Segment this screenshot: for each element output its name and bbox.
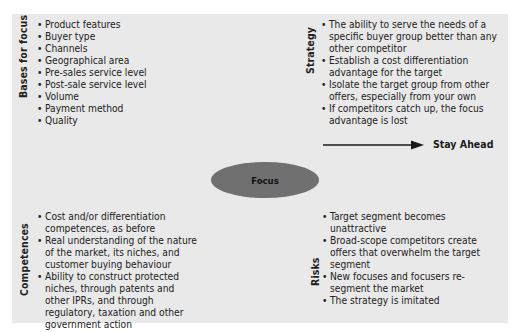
list-item: Isolate the target group from other offe… — [321, 79, 507, 103]
list-item: The ability to serve the needs of a spec… — [321, 19, 507, 55]
list-item: Broad-scope competitors create offers th… — [322, 235, 502, 271]
list-item: Buyer type — [37, 31, 217, 43]
list-item: Target segment becomes unattractive — [322, 211, 502, 235]
list-item: Post-sale service level — [37, 79, 217, 91]
competences-label: Competences — [18, 223, 30, 296]
list-item: Volume — [37, 91, 217, 103]
list-item: Ability to construct protected niches, t… — [37, 271, 197, 331]
list-item: Geographical area — [37, 55, 217, 67]
bases-list: Product features Buyer type Channels Geo… — [37, 19, 217, 127]
list-item: Establish a cost differentiation advanta… — [321, 55, 507, 79]
arrow-right-icon — [323, 139, 425, 151]
list-item: Cost and/or differentiation competences,… — [37, 211, 197, 235]
risks-label: Risks — [309, 257, 321, 286]
strategy-label: Strategy — [304, 27, 316, 74]
list-item: Quality — [37, 115, 217, 127]
risks-list: Target segment becomes unattractive Broa… — [322, 211, 502, 307]
focus-label: Focus — [251, 175, 279, 186]
bases-for-focus-label: Bases for focus — [17, 15, 29, 98]
list-item: The strategy is imitated — [322, 295, 502, 307]
list-item: Channels — [37, 43, 217, 55]
list-item: Product features — [37, 19, 217, 31]
list-item: Payment method — [37, 103, 217, 115]
list-item: New focuses and focusers re-segment the … — [322, 271, 502, 295]
list-item: Pre-sales service level — [37, 67, 217, 79]
list-item: Real understanding of the nature of the … — [37, 235, 197, 271]
competences-list: Cost and/or differentiation competences,… — [37, 211, 197, 331]
stay-ahead-label: Stay Ahead — [433, 138, 493, 150]
focus-ellipse: Focus — [211, 162, 319, 198]
list-item: If competitors catch up, the focus advan… — [321, 103, 507, 127]
strategy-list: The ability to serve the needs of a spec… — [321, 19, 507, 127]
